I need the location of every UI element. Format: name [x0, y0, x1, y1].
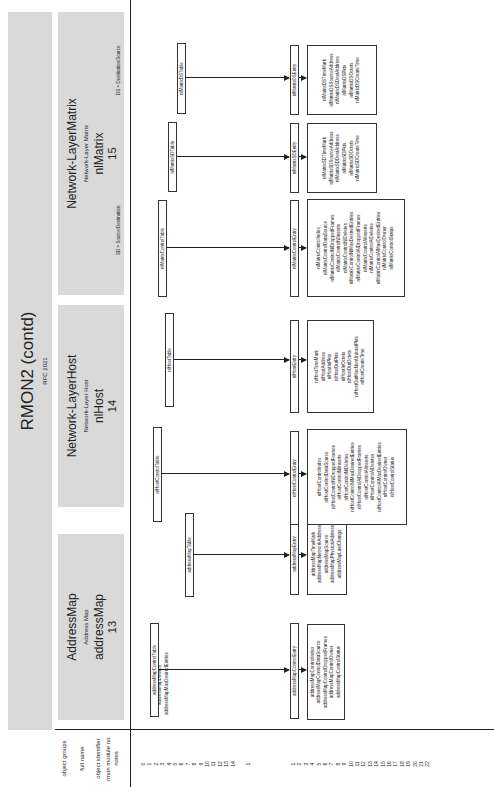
column-item: addressMapControlStatus — [336, 646, 343, 698]
columns-box: nlMatrixDSTimeMarknlMatrixDSSourceAddres… — [307, 45, 377, 115]
table-to-entry-arrow — [162, 474, 289, 475]
table-name: nlHostControlTable — [155, 455, 160, 493]
entry-to-columns-arrow — [299, 669, 306, 670]
row-label-full-name: full name — [79, 730, 85, 787]
group-name: Network-LayerHost — [65, 305, 79, 507]
entry-to-columns-arrow — [299, 248, 306, 249]
row-label-module-no: rmon module no. — [105, 730, 111, 787]
column-item: nlMatrixSDSourceAddress — [329, 132, 336, 185]
column-item: addressMapNetworkAddress — [317, 525, 324, 583]
table-name: addressMapControlTable — [152, 645, 157, 695]
column-item: nlHostControlIndex — [317, 458, 324, 496]
row-number: 14 — [230, 759, 236, 769]
row-number: 6 — [178, 759, 184, 769]
column-item: nlMatrixSDCreateTime — [355, 135, 362, 180]
column-item: nlMatrixControlDataSource — [323, 221, 330, 275]
column-item: nlMatrixControlAlDroppedFrames — [356, 215, 363, 282]
entry-box[interactable]: addressMapControlEntry — [290, 623, 299, 719]
row-number: 4 — [309, 759, 315, 769]
column-item: nlMatrixSDPkts — [342, 143, 349, 174]
group-header-nlmatrix: Network-LayerMatrix Network-Layer Matrix… — [58, 12, 124, 295]
group-identifier: addressMap — [92, 534, 106, 720]
table-box[interactable]: addressMapControlTable — [150, 623, 159, 717]
column-item: nlMatrixDSPkts — [342, 65, 349, 96]
entry-box[interactable]: nlMatrixControlEntry — [290, 200, 299, 297]
label-column-divider — [55, 729, 494, 730]
rmon2-diagram: RMON2 (contd) RFC 2021 object groups ful… — [0, 0, 494, 787]
column-item: nlMatrixSDDestAddress — [335, 134, 342, 182]
row-number: 6 — [322, 759, 328, 769]
table-box[interactable]: addressMapTable — [185, 513, 194, 597]
row-number: 2 — [153, 759, 159, 769]
column-item: nlHostControlAlMaxDesiredEntries — [377, 442, 384, 511]
group-note-sd: SD = Source/Destination — [116, 206, 121, 255]
column-item: nlHostControlAlDeletes — [370, 454, 377, 501]
entry-box[interactable]: nlHostControlEntry — [290, 431, 299, 525]
column-item: addressMapControlIndex — [310, 647, 317, 697]
column-item: nlHostOutOctets — [347, 350, 354, 383]
group-name: AddressMap — [65, 534, 79, 720]
row-number: 9 — [198, 759, 204, 769]
column-item: nlMatrixControlNlInserts — [336, 224, 343, 272]
entry-name: nlHostControlEntry — [292, 459, 297, 497]
row-number: 22 — [424, 759, 430, 769]
group-full-name: Network-Layer Matrix — [83, 12, 89, 295]
column-item: nlHostAddress — [321, 352, 328, 381]
row-number: 20 — [412, 759, 418, 769]
row-label-object-groups: object groups — [61, 730, 67, 787]
columns-box: nlHostTimeMarknlHostAddressnlHostInPktsn… — [307, 320, 374, 413]
column-item: nlHostControlAlDroppedFrames — [357, 445, 364, 509]
table-box[interactable]: nlHostControlTable — [153, 427, 162, 522]
row-number: 1 — [146, 759, 152, 769]
row-number: 2 — [296, 759, 302, 769]
row-number: 17 — [392, 759, 398, 769]
row-number: 13 — [223, 759, 229, 769]
row-number: 18 — [399, 759, 405, 769]
entry-name: addressMapEntry — [292, 536, 297, 571]
column-item: addressMapControlOwner — [329, 646, 336, 699]
row-label-notes: notes — [113, 730, 119, 787]
column-item: nlMatrixDSSourceAddress — [329, 54, 336, 107]
row-number: 8 — [191, 759, 197, 769]
column-item: nlMatrixDSDestAddress — [335, 56, 342, 104]
column-item: addressMapLastChange — [337, 529, 344, 578]
column-item: nlMatrixDSOctets — [349, 63, 356, 98]
group-full-name: Address Map — [83, 534, 89, 720]
table-box[interactable]: nlHostTable — [165, 313, 174, 407]
column-item: addressMapControlDataSource — [316, 640, 323, 703]
row-number: 3 — [159, 759, 165, 769]
column-item: nlMatrixControlOwner — [382, 226, 389, 270]
row-number: 5 — [316, 759, 322, 769]
entry-box[interactable]: nlHostEntry — [290, 320, 299, 413]
header-divider — [130, 0, 131, 787]
column-item: nlMatrixControlNlDroppedFrames — [330, 214, 337, 281]
table-to-entry-arrow — [174, 359, 289, 360]
table-box[interactable]: nlMatrixControlTable — [158, 200, 167, 297]
column-item: nlHostControlNlInserts — [337, 455, 344, 500]
entry-name: addressMapControlEntry — [292, 646, 297, 696]
column-item: nlHostTimeMark — [314, 350, 321, 383]
entry-box[interactable]: nlMatrixDSEntry — [290, 45, 299, 115]
row-number: 15 — [380, 759, 386, 769]
group-header-nlhost: Network-LayerHost Network-Layer Host nlH… — [58, 305, 124, 507]
column-item: nlHostOutPkts — [334, 352, 341, 381]
column-item: nlMatrixDSTimeMark — [322, 59, 329, 101]
entry-box[interactable]: nlMatrixSDEntry — [290, 123, 299, 193]
column-item: nlHostControlStatus — [390, 457, 397, 497]
column-item: nlHostInOctets — [341, 352, 348, 382]
row-number: 10 — [204, 759, 210, 769]
column-item: addressMapControlDroppedFrames — [323, 636, 330, 708]
table-box[interactable]: nlMatrixDSTable — [177, 43, 186, 114]
row-number: 12 — [360, 759, 366, 769]
entry-to-columns-arrow — [299, 474, 306, 475]
entry-box[interactable]: addressMapEntry — [290, 513, 299, 595]
entry-name: nlHostEntry — [292, 355, 297, 378]
table-box[interactable]: nlMatrixSDTable — [168, 122, 177, 192]
column-item: addressMapPhysicalAddress — [330, 525, 337, 583]
row-number: 3 — [303, 759, 309, 769]
columns-box: nlMatrixSDTimeMarknlMatrixSDSourceAddres… — [307, 123, 377, 193]
column-item: nlMatrixControlNlMaxDesiredEntries — [349, 212, 356, 285]
row-number: 21 — [418, 759, 424, 769]
columns-box: addressMapTimeMarkaddressMapNetworkAddre… — [307, 513, 347, 595]
column-item: nlMatrixControlStatus — [389, 226, 396, 269]
